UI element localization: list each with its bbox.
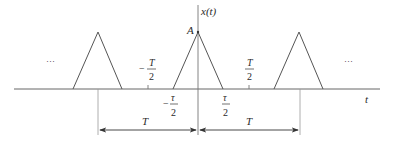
pulse-right [274, 32, 323, 89]
peak-dot [197, 31, 199, 33]
period-label-left: T [142, 115, 149, 127]
neg-half-period-numerator: T [149, 57, 156, 68]
vertical-axis-label: x(t) [200, 5, 217, 18]
amplitude-label: A [186, 24, 194, 36]
neg-half-period-sign: − [139, 63, 145, 74]
pulse-left [73, 32, 122, 89]
horizontal-axis-label: t [365, 93, 369, 105]
pulse-train-diagram: x(t) t A ··· ··· − T 2 T 2 − τ 2 τ 2 T T [0, 0, 398, 144]
ellipsis-left: ··· [46, 56, 55, 66]
pos-half-period-numerator: T [247, 57, 254, 68]
neg-half-width-denominator: 2 [171, 107, 176, 118]
neg-half-period-denominator: 2 [149, 71, 154, 82]
pos-half-width-denominator: 2 [223, 107, 228, 118]
period-label-right: T [246, 115, 253, 127]
pos-half-width-numerator: τ [223, 92, 227, 103]
ellipsis-right: ··· [344, 56, 353, 66]
neg-half-width-sign: − [163, 98, 169, 109]
pos-half-period-denominator: 2 [247, 71, 252, 82]
neg-half-width-numerator: τ [171, 92, 175, 103]
